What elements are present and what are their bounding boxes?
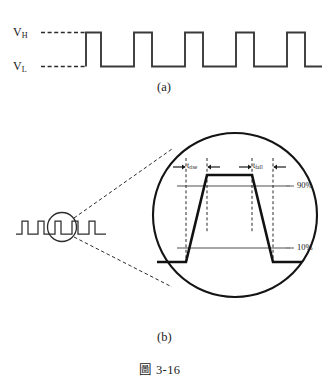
magnified-pulse-trace — [157, 175, 302, 262]
voltage-high-label: VH — [13, 25, 28, 40]
square-wave-trace — [86, 33, 322, 67]
caption-a: (a) — [157, 80, 171, 95]
caption-b: (b) — [157, 330, 172, 345]
t-rise-label: trise — [187, 161, 197, 170]
threshold-10-label: 10% — [297, 242, 313, 252]
small-waveform-trace — [16, 221, 106, 234]
threshold-90-label: 90% — [297, 180, 313, 190]
magnifier-circle — [153, 133, 317, 297]
voltage-low-label: VL — [13, 59, 27, 74]
figure-3-16: VH VL (a) trise tfall 90% 10% (b) 圖 3-16 — [0, 0, 334, 385]
figure-number: 圖 3-16 — [139, 359, 180, 378]
panel-a-graphic — [0, 0, 334, 385]
t-fall-label: tfall — [253, 161, 263, 170]
callout-leader-upper — [74, 149, 172, 218]
